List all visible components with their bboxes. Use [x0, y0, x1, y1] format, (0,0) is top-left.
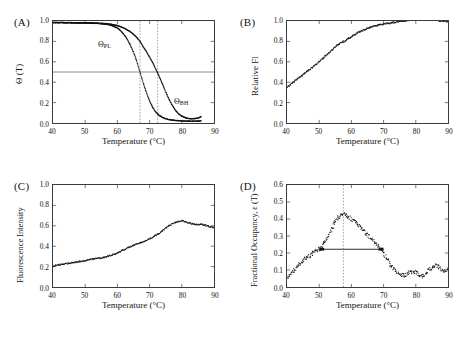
- figure-four-panel: (A) ΘPL ΘBH Θ (T) Temperature (°C) 40506…: [0, 0, 468, 343]
- x-tick-label: 90: [205, 127, 225, 136]
- panel-b-svg: [287, 21, 448, 123]
- panel-c-x-axis-title: Temperature (°C): [52, 300, 215, 310]
- y-tick-label: 0.4: [28, 242, 49, 251]
- relative-fl-points: [287, 21, 448, 88]
- panel-b-y-axis-title: Relative Fl: [250, 56, 260, 96]
- width-marker-annotation: [319, 247, 383, 251]
- y-tick-label: 0.6: [262, 180, 283, 189]
- y-tick-label: 0.4: [262, 78, 283, 87]
- x-tick-label: 60: [107, 291, 127, 300]
- panel-b-tick-marks: [287, 21, 448, 123]
- panel-c-tick-marks: [53, 185, 214, 287]
- theta-pl-subscript: PL: [104, 43, 111, 49]
- panel-a-svg: [53, 21, 214, 123]
- y-tick-label: 0.0: [28, 120, 49, 129]
- fluorescence-intensity-points: [53, 220, 214, 267]
- x-tick-label: 80: [172, 127, 192, 136]
- x-tick-label: 90: [439, 127, 459, 136]
- x-tick-label: 50: [309, 127, 329, 136]
- y-tick-label: 0.0: [28, 284, 49, 293]
- panel-b-x-axis-title: Temperature (°C): [286, 136, 449, 146]
- panel-a: (A) ΘPL ΘBH Θ (T) Temperature (°C) 40506…: [0, 0, 234, 171]
- x-tick-label: 60: [341, 127, 361, 136]
- panel-b: (B) Relative Fl Temperature (°C) 4050607…: [234, 0, 468, 171]
- curve-label-theta-pl: ΘPL: [98, 40, 111, 49]
- panel-d-svg: [287, 185, 448, 287]
- panel-c: (C) Fluorescence Intensity Temperature (…: [0, 171, 234, 342]
- panel-a-y-axis-title: Θ (T): [14, 64, 24, 84]
- y-tick-label: 0.2: [28, 99, 49, 108]
- y-tick-label: 0.2: [28, 263, 49, 272]
- panel-c-svg: [53, 185, 214, 287]
- x-tick-label: 50: [309, 291, 329, 300]
- theta-bh-subscript: BH: [180, 100, 189, 106]
- y-tick-label: 0.2: [262, 249, 283, 258]
- x-tick-label: 80: [172, 291, 192, 300]
- panel-d-tick-marks: [287, 185, 448, 287]
- curve-label-theta-bh: ΘBH: [174, 97, 188, 106]
- x-tick-label: 50: [75, 291, 95, 300]
- panel-a-plot-area: [52, 20, 215, 124]
- y-tick-label: 0.6: [28, 57, 49, 66]
- y-tick-label: 1.0: [28, 16, 49, 25]
- panel-a-x-axis-title: Temperature (°C): [52, 136, 215, 146]
- panel-c-label: (C): [14, 180, 29, 192]
- y-tick-label: 0.3: [262, 232, 283, 241]
- x-tick-label: 50: [75, 127, 95, 136]
- panel-b-label: (B): [240, 16, 255, 28]
- panel-b-plot-area: [286, 20, 449, 124]
- x-tick-label: 60: [107, 127, 127, 136]
- y-tick-label: 0.4: [262, 214, 283, 223]
- x-tick-label: 90: [439, 291, 459, 300]
- panel-d: (D) Fractional Occupancy, ε (T) Temperat…: [234, 171, 468, 342]
- x-tick-label: 90: [205, 291, 225, 300]
- x-tick-label: 80: [406, 127, 426, 136]
- y-tick-label: 1.0: [28, 180, 49, 189]
- y-tick-label: 0.4: [28, 78, 49, 87]
- y-tick-label: 0.2: [262, 99, 283, 108]
- y-tick-label: 0.0: [262, 284, 283, 293]
- y-tick-label: 0.8: [28, 200, 49, 209]
- y-tick-label: 1.0: [262, 16, 283, 25]
- x-tick-label: 60: [341, 291, 361, 300]
- y-tick-label: 0.6: [262, 57, 283, 66]
- y-tick-label: 0.0: [262, 120, 283, 129]
- panel-d-x-axis-title: Temperature (°C): [286, 300, 449, 310]
- x-tick-label: 70: [140, 127, 160, 136]
- x-tick-label: 80: [406, 291, 426, 300]
- y-tick-label: 0.1: [262, 266, 283, 275]
- panel-d-plot-area: [286, 184, 449, 288]
- panel-c-y-axis-title: Fluorescence Intensity: [16, 207, 25, 283]
- x-tick-label: 70: [140, 291, 160, 300]
- panel-d-label: (D): [240, 180, 256, 192]
- panel-d-y-axis-title: Fractional Occupancy, ε (T): [250, 193, 259, 287]
- panel-c-plot-area: [52, 184, 215, 288]
- fractional-occupancy-points: [287, 212, 448, 278]
- y-tick-label: 0.8: [28, 36, 49, 45]
- x-tick-label: 70: [374, 127, 394, 136]
- y-tick-label: 0.8: [262, 36, 283, 45]
- y-tick-label: 0.5: [262, 197, 283, 206]
- y-tick-label: 0.6: [28, 221, 49, 230]
- x-tick-label: 70: [374, 291, 394, 300]
